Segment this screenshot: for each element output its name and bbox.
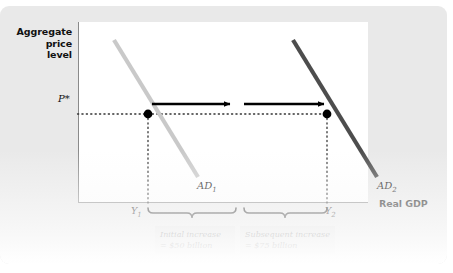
subsequent-increase-caption-line-1: Subsequent increase: [245, 229, 330, 240]
ad2-curve: [293, 40, 377, 177]
y2-label: Y2: [325, 205, 336, 219]
y-axis-title-line-3: level: [6, 49, 72, 61]
ad1-label-text: AD: [197, 180, 212, 191]
ad2-label: AD2: [377, 180, 397, 194]
p-star-label: P*: [58, 93, 70, 104]
y1-label: Y1: [131, 205, 142, 219]
equilibrium-point-2: [323, 110, 332, 119]
y-axis-title-line-2: price: [6, 38, 72, 50]
subsequent-increase-caption: Subsequent increase = $75 billion: [240, 226, 335, 255]
initial-increase-caption-line-1: Initial increase: [160, 229, 230, 240]
subsequent-increase-caption-line-2: = $75 billion: [245, 240, 330, 251]
y-axis-title: Aggregate price level: [6, 26, 72, 61]
equilibrium-point-1: [144, 110, 153, 119]
ad1-curve: [114, 40, 198, 177]
x-axis-title: Real GDP: [379, 198, 428, 209]
y-axis-title-line-1: Aggregate: [6, 26, 72, 38]
initial-increase-caption: Initial increase = $50 billion: [155, 226, 235, 255]
ad1-label: AD1: [197, 180, 217, 194]
ad2-label-text: AD: [377, 180, 392, 191]
initial-increase-caption-line-2: = $50 billion: [160, 240, 230, 251]
plot-graphics: [78, 22, 368, 203]
ad1-label-subscript: 1: [212, 186, 216, 194]
ad2-label-subscript: 2: [392, 186, 396, 194]
figure-canvas: Aggregate price level: [0, 0, 453, 273]
